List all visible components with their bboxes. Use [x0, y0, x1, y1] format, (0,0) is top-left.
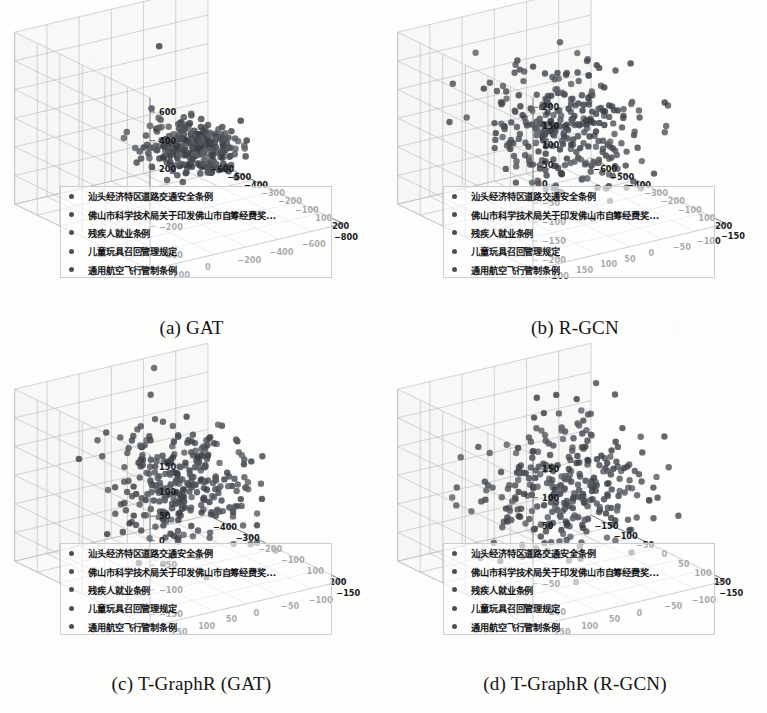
legend-item-label: 儿童玩具召回管理规定: [88, 601, 177, 615]
legend-item: 佛山市科学技术局关于印发佛山市自筹经费奖...: [61, 562, 331, 580]
legend-marker-icon: [69, 212, 74, 217]
svg-text:−150: −150: [719, 588, 743, 598]
svg-text:150: 150: [714, 577, 731, 587]
legend-item-label: 汕头经济特区道路交通安全条例: [88, 189, 213, 203]
subplot-panel-c: 150100500−50−100−150−400−300−200−1001002…: [0, 357, 383, 713]
legend-item-label: 残疾人就业条例: [471, 226, 533, 240]
svg-text:−300: −300: [236, 533, 260, 543]
svg-text:50: 50: [159, 511, 171, 521]
svg-text:50: 50: [542, 160, 554, 170]
legend-marker-icon: [452, 230, 457, 235]
legend-item-label: 佛山市科学技术局关于印发佛山市自筹经费奖...: [471, 208, 659, 222]
legend-item-label: 儿童玩具召回管理规定: [88, 244, 177, 258]
legend-item: 儿童玩具召回管理规定: [61, 599, 331, 617]
legend-item: 通用航空飞行管制条例: [444, 618, 714, 636]
legend-item-label: 儿童玩具召回管理规定: [471, 244, 560, 258]
legend-d: 汕头经济特区道路交通安全条例佛山市科学技术局关于印发佛山市自筹经费奖...残疾人…: [443, 543, 715, 635]
legend-item-label: 通用航空飞行管制条例: [471, 620, 560, 634]
legend-item: 汕头经济特区道路交通安全条例: [444, 187, 714, 205]
legend-marker-icon: [452, 606, 457, 611]
legend-marker-icon: [69, 624, 74, 629]
svg-text:600: 600: [159, 107, 176, 117]
legend-marker-icon: [452, 551, 457, 556]
subplot-panel-b: 200150100500−50−100−150−200−600−500−400−…: [383, 0, 767, 357]
legend-item: 通用航空飞行管制条例: [61, 618, 331, 636]
legend-item: 儿童玩具召回管理规定: [61, 242, 331, 260]
legend-item: 汕头经济特区道路交通安全条例: [61, 187, 331, 205]
legend-item-label: 佛山市科学技术局关于印发佛山市自筹经费奖...: [471, 565, 659, 579]
legend-marker-icon: [452, 587, 457, 592]
legend-item-label: 残疾人就业条例: [88, 583, 150, 597]
legend-item-label: 儿童玩具召回管理规定: [471, 601, 560, 615]
legend-item: 残疾人就业条例: [61, 581, 331, 599]
legend-item: 儿童玩具召回管理规定: [444, 599, 714, 617]
legend-marker-icon: [69, 606, 74, 611]
legend-item-label: 残疾人就业条例: [471, 583, 533, 597]
legend-item: 残疾人就业条例: [61, 224, 331, 242]
legend-item: 佛山市科学技术局关于印发佛山市自筹经费奖...: [444, 205, 714, 223]
legend-marker-icon: [452, 249, 457, 254]
svg-text:−800: −800: [334, 232, 358, 242]
legend-item-label: 通用航空飞行管制条例: [471, 263, 560, 277]
legend-item: 残疾人就业条例: [444, 224, 714, 242]
legend-marker-icon: [69, 587, 74, 592]
legend-item: 通用航空飞行管制条例: [444, 261, 714, 279]
legend-item-label: 佛山市科学技术局关于印发佛山市自筹经费奖...: [88, 208, 276, 222]
legend-marker-icon: [452, 569, 457, 574]
legend-marker-icon: [69, 230, 74, 235]
subplot-caption-c: (c) T-GraphR (GAT): [0, 673, 383, 695]
legend-item-label: 佛山市科学技术局关于印发佛山市自筹经费奖...: [88, 565, 276, 579]
subplot-caption-a: (a) GAT: [0, 317, 383, 339]
legend-marker-icon: [452, 267, 457, 272]
svg-text:−400: −400: [213, 522, 237, 532]
svg-text:200: 200: [159, 164, 176, 174]
legend-marker-icon: [452, 212, 457, 217]
legend-b: 汕头经济特区道路交通安全条例佛山市科学技术局关于印发佛山市自筹经费奖...残疾人…: [443, 186, 715, 278]
svg-text:−100: −100: [614, 531, 638, 541]
svg-text:100: 100: [542, 140, 559, 150]
svg-text:200: 200: [542, 102, 559, 112]
legend-marker-icon: [69, 569, 74, 574]
legend-item: 汕头经济特区道路交通安全条例: [61, 544, 331, 562]
legend-marker-icon: [452, 194, 457, 199]
subplot-panel-a: 6004002000−200−400−600−500−400−300−200−1…: [0, 0, 383, 357]
svg-text:400: 400: [159, 136, 176, 146]
legend-item-label: 汕头经济特区道路交通安全条例: [88, 546, 213, 560]
legend-item: 汕头经济特区道路交通安全条例: [444, 544, 714, 562]
legend-item: 佛山市科学技术局关于印发佛山市自筹经费奖...: [444, 562, 714, 580]
legend-item: 儿童玩具召回管理规定: [444, 242, 714, 260]
svg-text:−150: −150: [721, 231, 745, 241]
svg-text:150: 150: [542, 464, 559, 474]
legend-marker-icon: [452, 624, 457, 629]
subplot-panel-d: 150100500−50−100−150−100−500501001501501…: [383, 357, 767, 713]
plot3d-b: 200150100500−50−100−150−200−600−500−400−…: [397, 8, 752, 298]
legend-item-label: 通用航空飞行管制条例: [88, 263, 177, 277]
subplot-caption-d: (d) T-GraphR (R-GCN): [383, 673, 767, 695]
plot3d-a: 6004002000−200−400−600−500−400−300−200−1…: [14, 8, 369, 298]
svg-text:100: 100: [159, 487, 176, 497]
legend-item-label: 残疾人就业条例: [88, 226, 150, 240]
legend-marker-icon: [69, 551, 74, 556]
legend-a: 汕头经济特区道路交通安全条例佛山市科学技术局关于印发佛山市自筹经费奖...残疾人…: [60, 186, 332, 278]
svg-text:100: 100: [542, 493, 559, 503]
legend-item-label: 通用航空飞行管制条例: [88, 620, 177, 634]
legend-marker-icon: [69, 194, 74, 199]
svg-text:50: 50: [542, 521, 554, 531]
legend-item: 残疾人就业条例: [444, 581, 714, 599]
plot3d-d: 150100500−50−100−150−100−500501001501501…: [397, 365, 752, 655]
legend-item-label: 汕头经济特区道路交通安全条例: [471, 546, 596, 560]
svg-text:150: 150: [542, 121, 559, 131]
svg-text:150: 150: [159, 462, 176, 472]
legend-item: 佛山市科学技术局关于印发佛山市自筹经费奖...: [61, 205, 331, 223]
legend-item: 通用航空飞行管制条例: [61, 261, 331, 279]
legend-marker-icon: [69, 267, 74, 272]
legend-item-label: 汕头经济特区道路交通安全条例: [471, 189, 596, 203]
legend-c: 汕头经济特区道路交通安全条例佛山市科学技术局关于印发佛山市自筹经费奖...残疾人…: [60, 543, 332, 635]
legend-marker-icon: [69, 249, 74, 254]
figure-grid: 6004002000−200−400−600−500−400−300−200−1…: [0, 0, 767, 713]
subplot-caption-b: (b) R-GCN: [383, 317, 767, 339]
svg-text:−150: −150: [336, 588, 360, 598]
plot3d-c: 150100500−50−100−150−400−300−200−1001002…: [14, 365, 369, 655]
